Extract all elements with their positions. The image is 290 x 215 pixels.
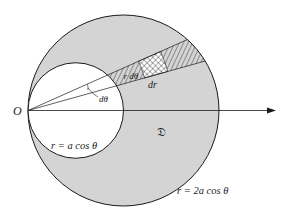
radial-element-label: dr [148,79,157,90]
arc-element-label: r dθ [124,71,139,81]
origin-label: O [13,104,22,118]
outer-curve-label: r = 2a cos θ [177,185,228,196]
axis-arrowhead [267,108,276,114]
region-label: 𝔇 [157,125,166,139]
polar-region-diagram: O dθ r dθ dr 𝔇 r = a cos θ r = 2a cos θ [0,0,290,215]
angle-label: dθ [99,94,109,104]
inner-curve-label: r = a cos θ [51,140,97,151]
